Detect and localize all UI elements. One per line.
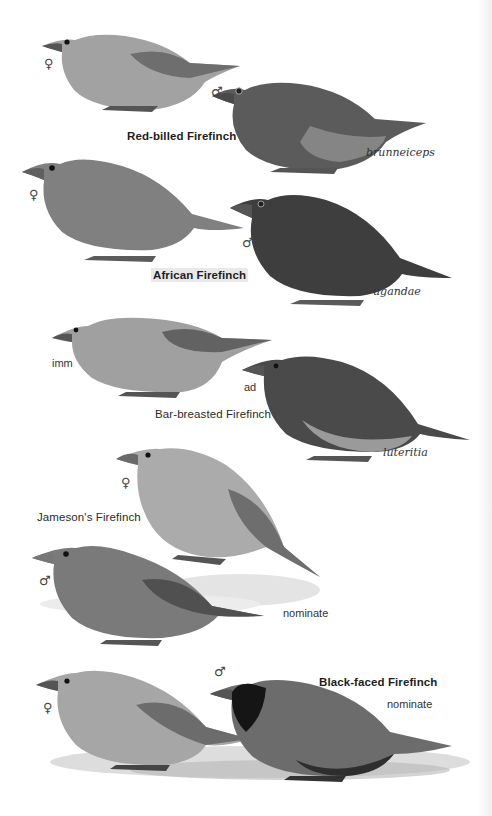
sex-symbol-female: ♀: [121, 475, 131, 490]
form-label-luteritia: luteritia: [383, 446, 428, 459]
bird-illustration-black-faced-male-nominate: [210, 676, 454, 784]
sex-symbol-female: ♀: [44, 56, 54, 71]
species-name-african-firefinch: African Firefinch: [151, 268, 248, 282]
field-guide-plate: ♀ ♂ Red-billed Firefinch brunneiceps ♀ ♂…: [0, 0, 492, 816]
bird-illustration-bar-breasted-immature: [52, 314, 274, 400]
form-label-nominate: nominate: [387, 698, 432, 710]
species-name-bar-breasted-firefinch: Bar-breasted Firefinch: [155, 408, 271, 420]
sex-symbol-female: ♀: [29, 187, 39, 202]
species-name-red-billed-firefinch: Red-billed Firefinch: [127, 130, 236, 142]
age-label-ad: ad: [244, 381, 256, 393]
sex-symbol-male: ♂: [39, 573, 51, 588]
bird-illustration-jamesons-male-nominate: [32, 540, 264, 648]
form-label-ugandae: ugandae: [373, 285, 421, 298]
form-label-brunneiceps: brunneiceps: [366, 146, 435, 159]
age-label-imm: imm: [52, 357, 73, 369]
species-name-jamesons-firefinch: Jameson's Firefinch: [37, 511, 141, 523]
bird-illustration-african-female: [22, 152, 248, 264]
sex-symbol-female: ♀: [43, 700, 53, 715]
sex-symbol-male: ♂: [214, 664, 226, 679]
species-name-black-faced-firefinch: Black-faced Firefinch: [319, 676, 437, 688]
form-label-nominate: nominate: [283, 607, 328, 619]
sex-symbol-male: ♂: [211, 84, 223, 99]
page-edge-shadow: [478, 0, 492, 816]
sex-symbol-male: ♂: [242, 235, 254, 250]
